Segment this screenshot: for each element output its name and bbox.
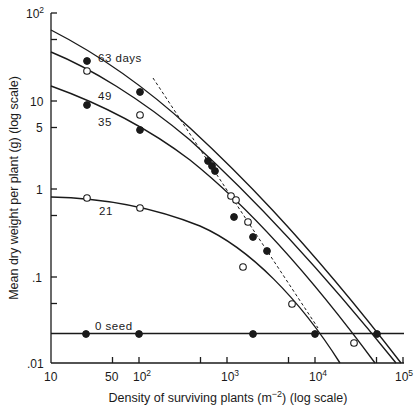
point-63d-730 (212, 168, 219, 175)
point-0seed-10000 (312, 331, 319, 338)
point-21d-1500 (240, 264, 247, 271)
point-49d-1250 (233, 197, 240, 204)
x-tick-label-100: 102 (133, 368, 151, 384)
x-tick-label-10: 10 (44, 370, 58, 384)
x-tick-labels: 10 50 102 103 104 105 (44, 368, 413, 384)
point-21d-5500 (289, 301, 296, 308)
curve-labels: 63 days 49 35 21 0 seed (95, 52, 142, 332)
point-35d-1950 (250, 234, 257, 241)
y-tick-label-100: 102 (26, 5, 44, 21)
y-tick-label-0.01: .01 (27, 357, 44, 371)
label-0-seed: 0 seed (95, 320, 133, 332)
point-49d-1700 (245, 219, 252, 226)
point-49d-100 (137, 112, 144, 119)
point-35d-2850 (264, 248, 271, 255)
point-35d-100 (137, 127, 144, 134)
point-63d-25 (84, 58, 91, 65)
y-axis-title: Mean dry weight per plant (g) (log scale… (7, 76, 21, 300)
label-21: 21 (99, 205, 113, 217)
label-49: 49 (98, 90, 112, 102)
point-0seed-1950 (250, 331, 257, 338)
x-axis-title: Density of surviving plants (m−2) (log s… (109, 389, 348, 405)
y-tick-label-0.1: .1 (32, 271, 42, 285)
label-63-days: 63 days (98, 52, 142, 64)
point-0seed-25 (83, 331, 90, 338)
point-63d-100 (137, 89, 144, 96)
x-tick-label-50: 50 (105, 370, 119, 384)
point-35d-25 (84, 102, 91, 109)
point-0seed-50000 (374, 331, 381, 338)
point-49d-25 (84, 68, 91, 75)
point-21d-27000 (351, 340, 358, 347)
x-tick-label-100000: 105 (395, 368, 413, 384)
y-tick-label-1: 1 (36, 183, 43, 197)
point-21d-25 (84, 195, 91, 202)
density-weight-chart: 102 10 5 1 .1 .01 10 50 102 103 104 105 … (0, 0, 419, 409)
curve-63-days (51, 30, 401, 363)
y-tick-label-10: 10 (30, 95, 44, 109)
x-tick-label-10000: 104 (309, 368, 327, 384)
point-0seed-100 (136, 331, 143, 338)
x-tick-label-1000: 103 (221, 368, 239, 384)
point-35d-1200 (231, 214, 238, 221)
open-points (84, 68, 358, 347)
curve-21-days (51, 197, 340, 363)
y-tick-label-5: 5 (36, 121, 43, 135)
label-35: 35 (98, 116, 112, 128)
y-tick-labels: 102 10 5 1 .1 .01 (26, 5, 44, 371)
axes (51, 13, 404, 363)
point-21d-100 (137, 205, 144, 212)
